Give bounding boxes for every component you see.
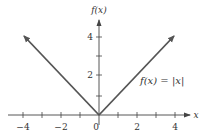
- function-label: f(x) = |x|: [139, 75, 184, 87]
- x-tick-label-4: 4: [172, 122, 178, 132]
- y-tick-label-2: 2: [87, 70, 93, 80]
- x-tick-label-2: 2: [134, 122, 140, 132]
- x-tick-label-neg4: −4: [16, 122, 30, 132]
- x-tick-label-0: 0: [93, 122, 99, 132]
- x-tick-label-neg2: −2: [54, 122, 67, 132]
- absolute-value-chart: −4 −2 0 2 4 2 4 f(x) x f(x) = |x|: [0, 0, 200, 137]
- y-axis-label: f(x): [90, 5, 107, 15]
- y-tick-label-4: 4: [87, 32, 93, 42]
- x-axis-label: x: [193, 110, 198, 120]
